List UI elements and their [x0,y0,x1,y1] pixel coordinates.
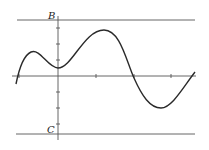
function-curve [16,30,195,108]
diagram-canvas: B C [0,0,209,150]
label-c: C [47,124,55,135]
label-b: B [47,10,55,21]
